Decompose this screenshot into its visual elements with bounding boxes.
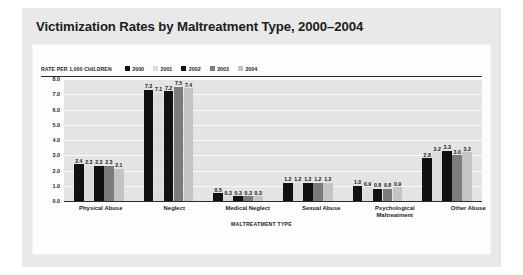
bar-column[interactable]: 1.2 bbox=[283, 79, 293, 201]
bar-value-label: 3.2 bbox=[464, 146, 471, 152]
x-axis-title: MALTREATMENT TYPE bbox=[41, 221, 482, 227]
bar-column[interactable]: 0.9 bbox=[363, 79, 373, 201]
chart-card: RATE PER 1,000 CHILDREN 2000200120022003… bbox=[33, 45, 490, 254]
chart-title: Victimization Rates by Maltreatment Type… bbox=[36, 19, 476, 34]
legend-swatch-icon bbox=[181, 66, 186, 71]
bar-column[interactable]: 0.3 bbox=[253, 79, 263, 201]
bar-value-label: 0.5 bbox=[215, 187, 222, 193]
bar-column[interactable]: 1.2 bbox=[293, 79, 303, 201]
bar-column[interactable]: 2.3 bbox=[84, 79, 94, 201]
bar-column[interactable]: 0.8 bbox=[373, 79, 383, 201]
bar[interactable] bbox=[154, 93, 164, 201]
bar[interactable] bbox=[84, 166, 94, 201]
bar-column[interactable]: 1.2 bbox=[323, 79, 333, 201]
bar-column[interactable]: 7.5 bbox=[174, 79, 184, 201]
legend-label: 2004 bbox=[245, 66, 257, 72]
plot-area: 0.01.02.03.04.05.06.07.08.0 2.42.32.32.3… bbox=[41, 79, 482, 212]
bar-value-label: 1.2 bbox=[284, 176, 291, 182]
bar-column[interactable]: 2.3 bbox=[94, 79, 104, 201]
legend-item-2003: 2003 bbox=[210, 66, 229, 72]
bar[interactable] bbox=[442, 151, 452, 201]
bar-column[interactable]: 7.3 bbox=[144, 79, 154, 201]
bar-value-label: 3.0 bbox=[454, 149, 461, 155]
bar-value-label: 7.5 bbox=[175, 80, 182, 86]
bar-column[interactable]: 2.1 bbox=[114, 79, 124, 201]
legend-divider bbox=[41, 76, 482, 77]
legend-items: 20002001200220032004 bbox=[125, 66, 257, 72]
bar-value-label: 1.2 bbox=[304, 176, 311, 182]
plot-background: 2.42.32.32.32.17.37.17.27.57.40.50.30.30… bbox=[64, 79, 482, 201]
legend: RATE PER 1,000 CHILDREN 2000200120022003… bbox=[41, 63, 482, 74]
bar-value-label: 3.2 bbox=[434, 146, 441, 152]
bar-value-label: 2.3 bbox=[85, 159, 92, 165]
bar[interactable] bbox=[422, 158, 432, 201]
bar-value-label: 0.3 bbox=[255, 190, 262, 196]
bar[interactable] bbox=[104, 166, 114, 201]
legend-swatch-icon bbox=[125, 66, 130, 71]
bar[interactable] bbox=[184, 88, 194, 201]
bar-column[interactable]: 3.3 bbox=[442, 79, 452, 201]
bar[interactable] bbox=[293, 183, 303, 201]
bar-group: 7.37.17.27.57.4 bbox=[134, 79, 204, 201]
category-label: Physical Abuse bbox=[64, 205, 138, 220]
x-axis-line bbox=[64, 201, 482, 202]
bar-value-label: 0.3 bbox=[235, 190, 242, 196]
bar-group: 0.50.30.30.30.3 bbox=[203, 79, 273, 201]
bar[interactable] bbox=[213, 193, 223, 201]
bar[interactable] bbox=[363, 187, 373, 201]
bar[interactable] bbox=[114, 169, 124, 201]
bar[interactable] bbox=[94, 166, 104, 201]
bar-column[interactable]: 0.9 bbox=[393, 79, 403, 201]
bar-column[interactable]: 3.0 bbox=[452, 79, 462, 201]
bar-value-label: 1.2 bbox=[314, 176, 321, 182]
bar-value-label: 0.9 bbox=[364, 181, 371, 187]
legend-swatch-icon bbox=[153, 66, 158, 71]
bar-value-label: 2.3 bbox=[95, 159, 102, 165]
bar-column[interactable]: 2.4 bbox=[74, 79, 84, 201]
bar-column[interactable]: 1.2 bbox=[303, 79, 313, 201]
bar[interactable] bbox=[353, 186, 363, 201]
bar[interactable] bbox=[432, 152, 442, 201]
bar[interactable] bbox=[164, 91, 174, 201]
bar-column[interactable]: 1.0 bbox=[353, 79, 363, 201]
bar-column[interactable]: 0.8 bbox=[383, 79, 393, 201]
bar[interactable] bbox=[313, 183, 323, 201]
bar[interactable] bbox=[174, 87, 184, 201]
category-label: Psychological Maltreatment bbox=[358, 205, 432, 220]
bar-value-label: 7.3 bbox=[145, 83, 152, 89]
bar-value-label: 2.3 bbox=[105, 159, 112, 165]
bar[interactable] bbox=[462, 152, 472, 201]
bar-column[interactable]: 0.3 bbox=[233, 79, 243, 201]
bar-group: 1.00.90.80.80.9 bbox=[343, 79, 413, 201]
bar-column[interactable]: 0.3 bbox=[243, 79, 253, 201]
bar[interactable] bbox=[393, 187, 403, 201]
y-tick-label: 8.0 bbox=[53, 76, 61, 82]
bar-value-label: 7.4 bbox=[185, 82, 192, 88]
bar[interactable] bbox=[283, 183, 293, 201]
bar-column[interactable]: 0.5 bbox=[213, 79, 223, 201]
y-tick-label: 6.0 bbox=[53, 107, 61, 113]
bar-column[interactable]: 3.2 bbox=[432, 79, 442, 201]
y-axis-tick-labels: 0.01.02.03.04.05.06.07.08.0 bbox=[41, 79, 62, 201]
category-label: Other Abuse bbox=[432, 205, 506, 220]
bar-column[interactable]: 7.4 bbox=[184, 79, 194, 201]
bar[interactable] bbox=[383, 189, 393, 201]
bar-value-label: 0.3 bbox=[245, 190, 252, 196]
bar-column[interactable]: 2.3 bbox=[104, 79, 114, 201]
bar-column[interactable]: 7.1 bbox=[154, 79, 164, 201]
bar[interactable] bbox=[144, 90, 154, 201]
bar[interactable] bbox=[303, 183, 313, 201]
x-axis-category-labels: Physical AbuseNeglectMedical NeglectSexu… bbox=[64, 205, 505, 220]
bar[interactable] bbox=[452, 155, 462, 201]
bar[interactable] bbox=[74, 164, 84, 201]
bar-value-label: 7.1 bbox=[155, 86, 162, 92]
bar-column[interactable]: 7.2 bbox=[164, 79, 174, 201]
bar-column[interactable]: 2.8 bbox=[422, 79, 432, 201]
bar-column[interactable]: 1.2 bbox=[313, 79, 323, 201]
bar-column[interactable]: 0.3 bbox=[223, 79, 233, 201]
bar-column[interactable]: 3.2 bbox=[462, 79, 472, 201]
bar[interactable] bbox=[373, 189, 383, 201]
legend-item-2002: 2002 bbox=[181, 66, 200, 72]
bar[interactable] bbox=[323, 183, 333, 201]
y-tick-label: 1.0 bbox=[53, 183, 61, 189]
